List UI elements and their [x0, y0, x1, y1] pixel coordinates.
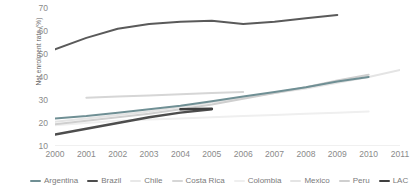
legend-swatch: [234, 180, 245, 182]
series-line: [55, 15, 337, 50]
legend-item[interactable]: Colombia: [234, 177, 282, 185]
legend-swatch: [87, 180, 98, 182]
line-chart: Net enrolment rate (%) 70605040302010 20…: [0, 0, 420, 195]
y-axis-tick-label: 20: [22, 119, 48, 128]
legend-swatch: [30, 180, 41, 182]
legend-item[interactable]: Costa Rica: [172, 177, 225, 185]
legend-item[interactable]: LAC: [379, 177, 409, 185]
legend-swatch: [339, 180, 350, 182]
legend-swatch: [172, 180, 183, 182]
legend-swatch: [290, 180, 301, 182]
legend-label: Colombia: [248, 177, 282, 185]
legend-item[interactable]: Brazil: [87, 177, 121, 185]
legend-label: Costa Rica: [186, 177, 225, 185]
y-axis-tick-label: 40: [22, 73, 48, 82]
legend-label: Mexico: [304, 177, 329, 185]
x-axis-tick-label: 2011: [391, 150, 409, 159]
legend-item[interactable]: Peru: [339, 177, 370, 185]
legend-label: Chile: [144, 177, 162, 185]
x-axis-tick-label: 2006: [234, 150, 253, 159]
x-axis-tick-label: 2003: [140, 150, 159, 159]
x-axis-tick-label: 2009: [328, 150, 347, 159]
x-axis-tick-label: 2010: [359, 150, 378, 159]
y-axis-tick-label: 70: [22, 4, 48, 13]
legend-item[interactable]: Mexico: [290, 177, 329, 185]
y-axis-tick-label: 60: [22, 27, 48, 36]
y-axis: Net enrolment rate (%) 70605040302010: [18, 0, 48, 160]
y-axis-tick-label: 30: [22, 96, 48, 105]
series-line: [86, 92, 243, 98]
x-axis-tick-label: 2000: [46, 150, 65, 159]
legend-item[interactable]: Chile: [130, 177, 162, 185]
plot-area: [55, 8, 400, 146]
legend-swatch: [130, 180, 141, 182]
x-axis-tick-label: 2001: [77, 150, 96, 159]
legend-label: Argentina: [44, 177, 78, 185]
x-axis-tick-label: 2005: [202, 150, 221, 159]
series-group: [55, 8, 400, 146]
y-axis-tick-label: 10: [22, 142, 48, 151]
legend-item[interactable]: Argentina: [30, 177, 78, 185]
legend-swatch: [379, 180, 390, 182]
legend-label: Brazil: [101, 177, 121, 185]
x-axis-tick-label: 2008: [296, 150, 315, 159]
x-axis: 2000200120022003200420052006200720082009…: [55, 150, 400, 164]
x-axis-tick-label: 2002: [108, 150, 127, 159]
legend-label: LAC: [393, 177, 409, 185]
x-axis-tick-label: 2004: [171, 150, 190, 159]
y-axis-tick-label: 50: [22, 50, 48, 59]
chart-legend: ArgentinaBrazilChileCosta RicaColombiaMe…: [30, 173, 400, 189]
x-axis-tick-label: 2007: [265, 150, 284, 159]
legend-label: Peru: [353, 177, 370, 185]
